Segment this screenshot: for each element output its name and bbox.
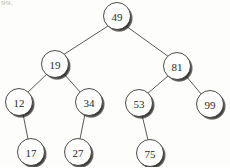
tree-edge bbox=[63, 26, 108, 55]
node-value-label: 17 bbox=[26, 147, 38, 159]
figure-canvas: 99. 49198112345399172775 bbox=[0, 0, 230, 167]
tree-edge bbox=[126, 26, 169, 57]
node-value-label: 53 bbox=[134, 98, 146, 110]
tree-edge bbox=[64, 74, 81, 93]
tree-edge bbox=[142, 115, 148, 140]
node-value-label: 12 bbox=[14, 97, 25, 109]
tree-edge bbox=[186, 76, 202, 95]
edge-layer bbox=[23, 26, 202, 140]
node-value-label: 75 bbox=[145, 148, 157, 160]
tree-node[interactable]: 75 bbox=[137, 140, 166, 168]
tree-edge bbox=[23, 114, 28, 139]
node-value-label: 34 bbox=[84, 97, 96, 109]
tree-node[interactable]: 81 bbox=[164, 53, 193, 82]
node-value-label: 19 bbox=[50, 59, 62, 71]
tree-node[interactable]: 12 bbox=[6, 89, 35, 118]
node-layer: 49198112345399172775 bbox=[6, 3, 226, 168]
tree-node[interactable]: 27 bbox=[65, 139, 94, 168]
tree-edge bbox=[147, 76, 168, 94]
tree-edge bbox=[27, 74, 47, 93]
node-value-label: 99 bbox=[205, 99, 217, 111]
node-value-label: 49 bbox=[112, 11, 124, 23]
node-value-label: 27 bbox=[73, 147, 85, 159]
binary-tree-diagram: 49198112345399172775 bbox=[0, 0, 230, 167]
tree-node[interactable]: 49 bbox=[104, 3, 133, 32]
node-value-label: 81 bbox=[172, 61, 183, 73]
tree-node[interactable]: 17 bbox=[18, 139, 47, 168]
tree-node[interactable]: 99 bbox=[197, 91, 226, 120]
tree-node[interactable]: 53 bbox=[126, 90, 155, 119]
tree-edge bbox=[80, 114, 85, 139]
tree-node[interactable]: 34 bbox=[76, 89, 105, 118]
